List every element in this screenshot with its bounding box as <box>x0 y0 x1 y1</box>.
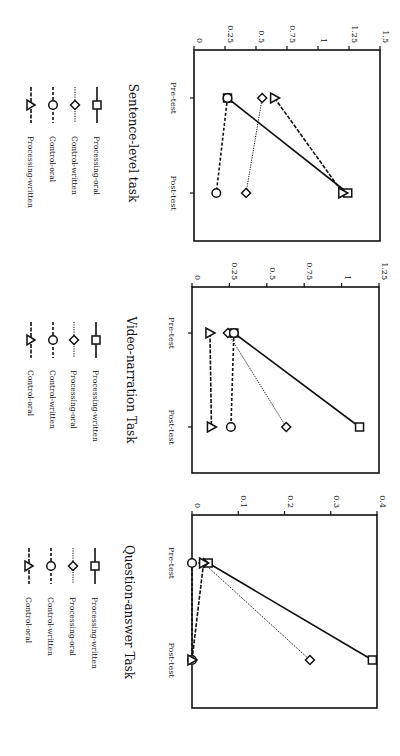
legend-item: Control-written <box>46 548 55 656</box>
data-point-processing-oral <box>282 423 291 432</box>
data-point-processing-written <box>368 656 376 664</box>
legend-label: Processing-written <box>26 136 35 208</box>
panel-title: Question-answer Task <box>122 545 136 680</box>
legend-label: Control-oral <box>48 136 57 183</box>
legend-label: Control-written <box>48 370 57 429</box>
panel-0: 00.250.50.7511.251.5Pre-testPost-testSen… <box>26 25 390 241</box>
legend-item: Control-written <box>48 322 57 429</box>
legend-label: Control-oral <box>26 370 35 417</box>
y-tick-label: 1 <box>319 38 328 43</box>
legend-label: Processing-oral <box>68 597 77 657</box>
data-point-control-oral <box>223 94 232 103</box>
series-line-control-oral <box>216 98 227 193</box>
legend-label: Control-written <box>70 136 79 195</box>
legend-marker-square <box>93 101 101 109</box>
panel-title: Video-narration Task <box>124 316 138 445</box>
legend-item: Processing-written <box>90 548 99 669</box>
y-tick-label: 1.25 <box>350 25 359 43</box>
series-line-processing-written <box>234 333 360 427</box>
panel-1: 00.250.50.7511.25Pre-testPost-testVideo-… <box>26 262 389 473</box>
legend-marker-diamond <box>69 562 78 571</box>
x-tick-label: Pre-test <box>167 547 176 580</box>
y-tick-label: 0.75 <box>305 262 314 280</box>
legend-marker-circle <box>49 336 58 345</box>
y-tick-label: 0.25 <box>230 262 239 280</box>
legend-item: Control-written <box>70 87 79 195</box>
y-tick-label: 0 <box>193 275 202 280</box>
y-tick-label: 0.2 <box>286 495 295 508</box>
legend-item: Processing-oral <box>92 87 101 196</box>
chart-figure: 00.250.50.7511.251.5Pre-testPost-testSen… <box>0 0 400 756</box>
legend-marker-diamond <box>71 101 80 110</box>
data-point-control-written <box>230 329 239 338</box>
legend-label: Processing-oral <box>92 136 101 196</box>
y-tick-label: 0 <box>195 38 204 43</box>
legend-item: Processing-oral <box>69 322 78 430</box>
y-tick-label: 0.25 <box>226 25 235 43</box>
legend-item: Processing-written <box>26 87 35 208</box>
y-tick-label: 1.5 <box>381 30 390 43</box>
series-line-control-written <box>246 98 262 193</box>
y-tick-label: 0.5 <box>257 30 266 43</box>
x-tick-label: Pre-test <box>169 82 178 115</box>
legend-label: Processing-oral <box>69 370 78 430</box>
series-line-processing-written <box>275 98 343 193</box>
series-line-processing-oral <box>228 333 286 427</box>
legend-item: Processing-oral <box>68 548 77 657</box>
y-tick-label: 0.4 <box>378 495 387 508</box>
legend-item: Control-oral <box>24 548 33 644</box>
y-tick-label: 1 <box>343 275 352 280</box>
data-point-processing-written <box>271 93 280 103</box>
legend-marker-square <box>92 336 100 344</box>
y-tick-label: 0.75 <box>288 25 297 43</box>
x-tick-label: Post-test <box>167 642 176 678</box>
x-tick-label: Post-test <box>169 175 178 211</box>
series-line-control-oral <box>192 563 204 660</box>
x-tick-label: Post-test <box>167 409 176 445</box>
legend-label: Control-written <box>46 597 55 656</box>
data-point-control-written <box>188 559 197 568</box>
y-tick-label: 1.25 <box>380 262 389 280</box>
series-line-processing-written <box>208 563 372 660</box>
y-tick-label: 0 <box>193 503 202 508</box>
plot-frame <box>192 515 377 708</box>
legend-marker-square <box>91 562 99 570</box>
legend-label: Processing-written <box>90 597 99 669</box>
data-point-control-written <box>242 189 251 198</box>
panel-2: 00.10.20.30.4Pre-testPost-testQuestion-a… <box>24 495 387 708</box>
plot-frame <box>192 287 379 473</box>
legend-label: Processing-written <box>91 370 100 442</box>
series-line-control-oral <box>210 333 211 427</box>
legend-item: Control-oral <box>48 87 57 183</box>
series-line-processing-oral <box>204 563 310 660</box>
y-tick-label: 0.1 <box>239 495 248 508</box>
legend-marker-diamond <box>70 336 79 345</box>
data-point-processing-written <box>356 423 364 431</box>
legend-item: Control-oral <box>26 322 35 417</box>
data-point-control-written <box>258 94 267 103</box>
data-point-control-oral <box>212 189 221 198</box>
data-point-control-written <box>227 423 236 432</box>
legend-item: Processing-written <box>91 322 100 442</box>
x-tick-label: Pre-test <box>167 317 176 350</box>
series-line-processing-oral <box>227 98 347 193</box>
legend-marker-circle <box>47 562 56 571</box>
series-line-control-written <box>231 333 234 427</box>
panel-title: Sentence-level task <box>126 84 140 203</box>
y-tick-label: 0.5 <box>268 267 277 280</box>
legend-marker-circle <box>49 101 58 110</box>
legend-label: Control-oral <box>24 597 33 644</box>
y-tick-label: 0.3 <box>332 495 341 508</box>
